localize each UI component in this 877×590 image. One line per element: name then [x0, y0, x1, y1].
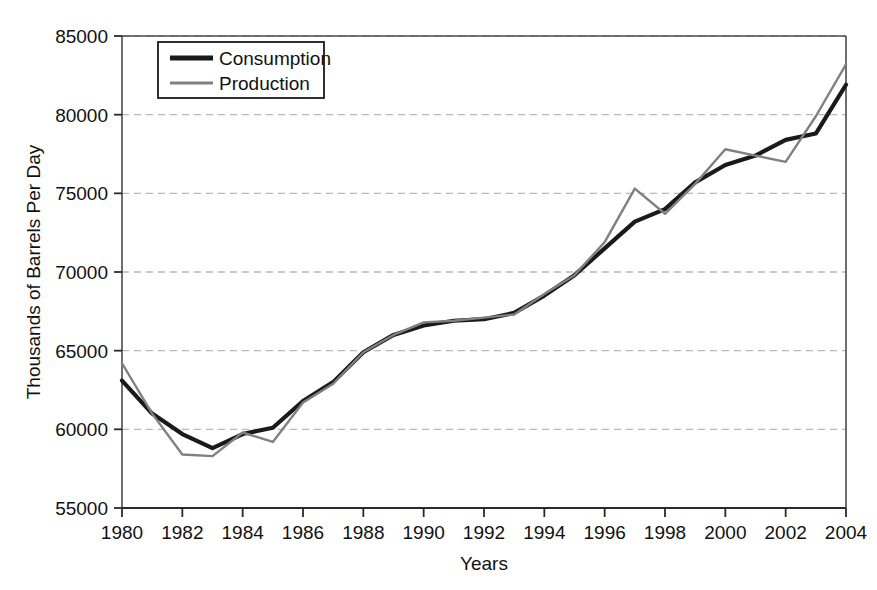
- y-tick-label: 70000: [55, 262, 108, 283]
- y-axis-tick-labels: 55000600006500070000750008000085000: [55, 26, 108, 519]
- y-tick-label: 85000: [55, 26, 108, 47]
- y-tick-label: 75000: [55, 183, 108, 204]
- y-tick-label: 60000: [55, 419, 108, 440]
- line-chart: 55000600006500070000750008000085000 1980…: [0, 0, 877, 590]
- x-tick-label: 1984: [222, 522, 265, 543]
- chart-figure: 55000600006500070000750008000085000 1980…: [0, 0, 877, 590]
- x-tick-label: 1992: [463, 522, 505, 543]
- x-tick-label: 1986: [282, 522, 324, 543]
- y-axis-ticks: [114, 36, 122, 508]
- x-tick-label: 1988: [342, 522, 384, 543]
- y-tick-label: 80000: [55, 105, 108, 126]
- x-tick-label: 2004: [825, 522, 868, 543]
- x-tick-label: 1996: [584, 522, 626, 543]
- x-axis-ticks: [122, 508, 846, 517]
- x-tick-label: 2000: [704, 522, 746, 543]
- x-axis-title: Years: [460, 553, 508, 574]
- x-tick-label: 1990: [403, 522, 445, 543]
- legend: Consumption Production: [158, 42, 331, 98]
- x-tick-label: 1980: [101, 522, 143, 543]
- legend-label-consumption: Consumption: [219, 48, 331, 69]
- y-tick-label: 65000: [55, 341, 108, 362]
- x-tick-label: 1994: [523, 522, 566, 543]
- x-tick-label: 1998: [644, 522, 686, 543]
- y-axis-title: Thousands of Barrels Per Day: [23, 144, 44, 399]
- x-tick-label: 2002: [765, 522, 807, 543]
- y-tick-label: 55000: [55, 498, 108, 519]
- legend-label-production: Production: [219, 73, 310, 94]
- x-tick-label: 1982: [161, 522, 203, 543]
- x-axis-tick-labels: 1980198219841986198819901992199419961998…: [101, 522, 868, 543]
